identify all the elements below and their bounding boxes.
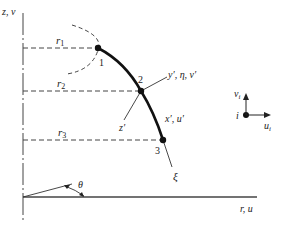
curvature-arc [67, 25, 99, 74]
axisymmetric-shell-element-diagram: z, v r, u r1 r2 r3 ξ y′, η, v′ x′, u′ z′… [0, 0, 285, 230]
z-prime-axis-label: z′ [118, 122, 126, 133]
radius-label-r2: r2 [57, 77, 65, 91]
v-i-label: vi [234, 88, 240, 101]
node-i-label: i [236, 110, 239, 121]
node-1 [95, 45, 101, 51]
node-3 [160, 137, 166, 143]
arrow-up-icon [243, 93, 249, 100]
angle-theta-indicator [23, 184, 84, 197]
z-axis-label: z, v [1, 6, 16, 17]
radius-label-r3: r3 [58, 126, 66, 140]
node-2 [138, 88, 144, 94]
node-i-displacement-legend [243, 93, 271, 118]
u-i-label: ui [264, 120, 271, 133]
arrowhead-icon [64, 185, 70, 189]
radius-label-r1: r1 [56, 34, 64, 48]
x-prime-axis-label: x′, u′ [164, 113, 185, 124]
r-axis-label: r, u [240, 203, 253, 214]
xi-label: ξ [173, 170, 178, 183]
node-label-2: 2 [138, 74, 143, 85]
xi-axis-line [163, 140, 172, 167]
y-prime-axis-label: y′, η, v′ [167, 69, 197, 80]
node-label-1: 1 [99, 57, 104, 68]
node-label-3: 3 [155, 145, 160, 156]
arrow-right-icon [264, 112, 271, 118]
theta-label: θ [78, 179, 83, 190]
shell-element-curve [98, 48, 163, 140]
